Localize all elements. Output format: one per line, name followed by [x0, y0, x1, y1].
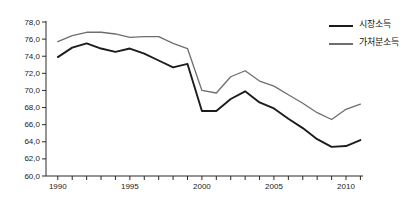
y-axis-tick-label: 78,0	[24, 18, 40, 27]
line-chart: 60,062,064,066,068,070,072,074,076,078,0…	[0, 0, 410, 204]
y-axis-tick-label: 64,0	[24, 137, 40, 146]
x-axis-tick-label: 2010	[337, 182, 355, 191]
legend-item-label: 가처분소득	[359, 38, 399, 47]
y-axis-tick-label: 74,0	[24, 52, 40, 61]
chart-plot-area: 60,062,064,066,068,070,072,074,076,078,0…	[0, 0, 410, 204]
y-axis-tick-label: 60,0	[24, 172, 40, 181]
series-line	[58, 43, 361, 147]
x-axis-tick-label: 1995	[121, 182, 139, 191]
x-axis-tick-label: 1990	[49, 182, 67, 191]
series-line	[58, 32, 361, 119]
y-axis-tick-label: 62,0	[24, 154, 40, 163]
y-axis-tick-label: 72,0	[24, 69, 40, 78]
legend-line-swatch	[329, 43, 353, 45]
legend-line-swatch	[329, 25, 353, 27]
y-axis-tick-label: 68,0	[24, 103, 40, 112]
y-axis-tick-label: 70,0	[24, 86, 40, 95]
y-axis-tick-label: 76,0	[24, 35, 40, 44]
legend-item-label: 시장소득	[359, 20, 391, 29]
x-axis-tick-label: 2005	[265, 182, 283, 191]
x-axis-tick-label: 2000	[193, 182, 211, 191]
y-axis-tick-label: 66,0	[24, 120, 40, 129]
